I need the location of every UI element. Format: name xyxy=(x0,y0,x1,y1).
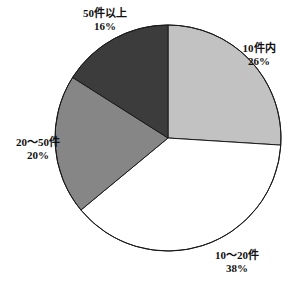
pie-label-10in-name: 10件内 xyxy=(228,42,290,55)
pie-label-20to50: 20～50件 20% xyxy=(2,136,74,163)
pie-label-50plus-value: 16% xyxy=(62,20,148,33)
pie-label-10to20-value: 38% xyxy=(200,262,274,275)
pie-chart: 50件以上 16% 10件内 26% 20～50件 20% 10～20件 38% xyxy=(0,0,293,286)
pie-label-10to20-name: 10～20件 xyxy=(200,249,274,262)
pie-label-10to20: 10～20件 38% xyxy=(200,249,274,276)
pie-label-50plus: 50件以上 16% xyxy=(62,7,148,34)
pie-label-10in: 10件内 26% xyxy=(228,42,290,69)
pie-label-20to50-value: 20% xyxy=(2,149,74,162)
pie-label-50plus-name: 50件以上 xyxy=(62,7,148,20)
pie-label-20to50-name: 20～50件 xyxy=(2,136,74,149)
pie-label-10in-value: 26% xyxy=(228,55,290,68)
